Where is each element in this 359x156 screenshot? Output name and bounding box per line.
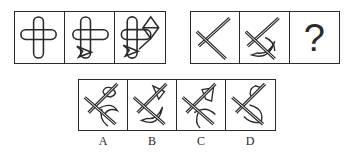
group2-cell-1 — [191, 12, 240, 63]
cross-capsules-arrowhead-diamond-icon — [115, 12, 165, 63]
option-d-figure-icon — [226, 80, 275, 130]
option-b-label: B — [134, 134, 170, 149]
option-b[interactable] — [128, 80, 177, 130]
x-cross-icon — [191, 12, 239, 63]
sequence-group-2: ? — [190, 11, 340, 64]
group1-cell-3 — [115, 12, 165, 63]
group1-cell-2 — [65, 12, 115, 63]
cross-capsules-icon — [15, 12, 64, 63]
option-a[interactable] — [79, 80, 128, 130]
question-mark: ? — [290, 18, 339, 58]
option-a-figure-icon — [79, 80, 127, 130]
sequence-group-1 — [14, 11, 166, 64]
option-d[interactable] — [226, 80, 275, 130]
group2-cell-2 — [240, 12, 289, 63]
option-c-figure-icon — [177, 80, 225, 130]
option-c-label: C — [183, 134, 219, 149]
cross-capsules-arrowhead-icon — [65, 12, 114, 63]
option-d-label: D — [232, 134, 268, 149]
x-cross-crescent-icon — [240, 12, 288, 63]
option-a-label: A — [85, 134, 121, 149]
group1-cell-1 — [15, 12, 65, 63]
option-b-figure-icon — [128, 80, 176, 130]
answer-options — [78, 79, 276, 131]
option-c[interactable] — [177, 80, 226, 130]
group2-cell-3: ? — [290, 12, 339, 63]
